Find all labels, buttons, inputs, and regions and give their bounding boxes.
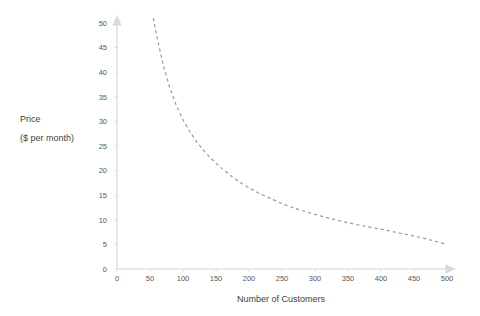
- x-tick-label: 450: [408, 274, 421, 283]
- y-tick-label: 40: [99, 68, 107, 77]
- y-tick-label: 30: [99, 117, 107, 126]
- demand-curve-line: [153, 18, 447, 244]
- x-tick-label: 300: [309, 274, 322, 283]
- y-tick-label: 0: [103, 265, 107, 274]
- x-tick-label: 200: [243, 274, 256, 283]
- x-tick-label: 250: [276, 274, 289, 283]
- y-tick-label: 10: [99, 216, 107, 225]
- chart-canvas: Price ($ per month) Number of Customers …: [0, 0, 480, 316]
- y-axis-title-line2: ($ per month): [20, 133, 74, 143]
- x-axis-ticks: 050100150200250300350400450500: [115, 269, 453, 283]
- y-tick-label: 35: [99, 93, 107, 102]
- y-tick-label: 5: [103, 240, 107, 249]
- y-axis-arrow-icon: [112, 15, 121, 26]
- x-tick-label: 350: [342, 274, 355, 283]
- x-tick-label: 150: [210, 274, 223, 283]
- y-tick-label: 20: [99, 166, 107, 175]
- x-tick-label: 50: [146, 274, 154, 283]
- x-tick-label: 100: [177, 274, 190, 283]
- x-tick-label: 500: [441, 274, 454, 283]
- y-tick-label: 15: [99, 191, 107, 200]
- y-tick-label: 45: [99, 43, 107, 52]
- y-axis-ticks: 05101520253035404550: [99, 19, 117, 274]
- y-tick-label: 25: [99, 142, 107, 151]
- y-tick-label: 50: [99, 19, 107, 28]
- x-tick-label: 400: [375, 274, 388, 283]
- x-tick-label: 0: [115, 274, 119, 283]
- demand-curve-chart: Price ($ per month) Number of Customers …: [0, 0, 480, 316]
- x-axis-title: Number of Customers: [237, 294, 326, 304]
- y-axis-title-line1: Price: [20, 114, 41, 124]
